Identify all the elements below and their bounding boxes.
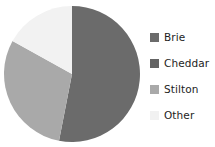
legend-item-stilton[interactable]: Stilton bbox=[150, 76, 215, 102]
pie-plot-area bbox=[0, 0, 145, 147]
legend-item-other[interactable]: Other bbox=[150, 102, 215, 128]
legend-label-cheddar: Cheddar bbox=[164, 58, 209, 69]
pie-svg bbox=[0, 0, 145, 147]
legend-item-brie[interactable]: Brie bbox=[150, 24, 215, 50]
chart-legend: Brie Cheddar Stilton Other bbox=[150, 24, 215, 128]
pie-chart-figure: Brie Cheddar Stilton Other bbox=[0, 0, 215, 147]
legend-item-cheddar[interactable]: Cheddar bbox=[150, 50, 215, 76]
legend-label-brie: Brie bbox=[164, 32, 185, 43]
legend-swatch-stilton-icon bbox=[150, 85, 159, 94]
legend-label-stilton: Stilton bbox=[164, 84, 199, 95]
legend-swatch-other-icon bbox=[150, 111, 159, 120]
legend-swatch-brie-icon bbox=[150, 33, 159, 42]
legend-label-other: Other bbox=[164, 110, 194, 121]
legend-swatch-cheddar-icon bbox=[150, 59, 159, 68]
pie-slice-group bbox=[4, 6, 140, 142]
